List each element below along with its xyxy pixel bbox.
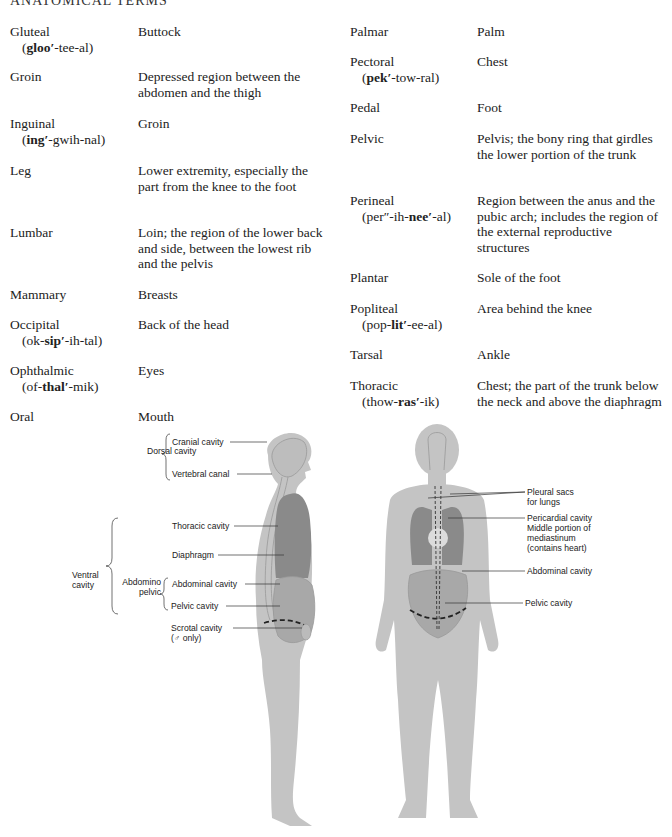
glossary-entry: Lumbar Loin; the region of the lower bac… <box>10 225 330 272</box>
label-diaphragm: Diaphragm <box>172 550 214 560</box>
pronunciation: (gloo′-tee-al) <box>10 40 138 56</box>
term: Popliteal <box>350 301 398 316</box>
body-cavities-figure: Dorsal cavity Cranial cavity Vertebral c… <box>0 420 672 837</box>
glossary-entry: Inguinal(ing′-gwih-nal) Groin <box>10 116 170 147</box>
glossary-entry: Palmar Palm <box>350 24 505 40</box>
definition: Lower extremity, especially the part fro… <box>138 163 330 194</box>
definition: Depressed region between the abdomen and… <box>138 69 330 100</box>
label-pleural-sacs: Pleural sacs <box>527 487 574 497</box>
term: Pedal <box>350 100 380 115</box>
term: Gluteal <box>10 24 50 39</box>
pronunciation: (ok-sip′-ih-tal) <box>10 333 138 349</box>
pronunciation: (of-thal′-mik) <box>10 379 138 395</box>
definition: Palm <box>477 24 505 40</box>
definition: Ankle <box>477 347 510 363</box>
term: Thoracic <box>350 378 398 393</box>
pronunciation: (per″-ih-nee′-al) <box>350 209 477 225</box>
pronunciation: (thow-ras′-ik) <box>350 394 477 410</box>
label-pelvic-cavity-front: Pelvic cavity <box>525 598 572 608</box>
term: Tarsal <box>350 347 383 362</box>
side-view-body <box>255 433 314 826</box>
definition: Area behind the knee <box>477 301 592 332</box>
glossary-entry: Pectoral(pek′-tow-ral) Chest <box>350 54 508 85</box>
glossary-entry: Ophthalmic(of-thal′-mik) Eyes <box>10 363 164 394</box>
definition: Back of the head <box>138 317 229 348</box>
definition: Chest <box>477 54 508 85</box>
term: Lumbar <box>10 225 53 240</box>
glossary-entry: Tarsal Ankle <box>350 347 510 363</box>
definition: Pelvis; the bony ring that girdles the l… <box>477 131 665 162</box>
definition: Eyes <box>138 363 164 394</box>
pronunciation: (pop-lit′-ee-al) <box>350 317 477 333</box>
label-pericardial-2: Middle portion of <box>527 523 591 533</box>
term: Mammary <box>10 287 66 302</box>
glossary-entry: Gluteal(gloo′-tee-al) Buttock <box>10 24 181 55</box>
glossary-entry: Popliteal(pop-lit′-ee-al) Area behind th… <box>350 301 592 332</box>
definition: Chest; the part of the trunk below the n… <box>477 378 665 409</box>
label-abdomino-pelvic: Abdomino pelvic <box>113 577 161 597</box>
label-cranial-cavity: Cranial cavity <box>172 437 224 447</box>
definition: Sole of the foot <box>477 270 561 286</box>
label-ventral-cavity: Ventral cavity <box>72 570 108 590</box>
glossary-entry: Pelvic Pelvis; the bony ring that girdle… <box>350 131 665 162</box>
glossary-entry: Thoracic(thow-ras′-ik) Chest; the part o… <box>350 378 665 409</box>
body-illustration <box>0 420 672 837</box>
glossary-entry: Perineal(per″-ih-nee′-al) Region between… <box>350 193 665 255</box>
term: Occipital <box>10 317 59 332</box>
term: Perineal <box>350 193 394 208</box>
term: Leg <box>10 163 31 178</box>
label-pericardial-3: mediastinum <box>527 533 576 543</box>
definition: Breasts <box>138 287 178 303</box>
page-header: ANATOMICAL TERMS <box>10 0 168 9</box>
term: Ophthalmic <box>10 363 74 378</box>
term: Palmar <box>350 24 388 39</box>
label-abdominal-cavity-front: Abdominal cavity <box>527 566 592 576</box>
label-abdominal-cavity: Abdominal cavity <box>172 579 237 589</box>
glossary-entry: Groin Depressed region between the abdom… <box>10 69 330 100</box>
label-pericardial-4: (contains heart) <box>527 543 587 553</box>
term: Inguinal <box>10 116 55 131</box>
glossary-entry: Leg Lower extremity, especially the part… <box>10 163 330 194</box>
label-scrotal-note: (♂ only) <box>171 633 201 643</box>
glossary-entry: Pedal Foot <box>350 100 502 116</box>
pronunciation: (pek′-tow-ral) <box>350 70 477 86</box>
definition: Foot <box>477 100 502 116</box>
label-pericardial-cavity: Pericardial cavity <box>527 513 592 523</box>
glossary-entry: Plantar Sole of the foot <box>350 270 561 286</box>
label-dorsal-cavity: Dorsal cavity <box>147 446 196 456</box>
label-pleural-sacs-2: for lungs <box>527 497 560 507</box>
definition: Buttock <box>138 24 181 55</box>
term: Pectoral <box>350 54 394 69</box>
definition: Groin <box>138 116 170 147</box>
definition: Region between the anus and the pubic ar… <box>477 193 665 255</box>
definition: Loin; the region of the lower back and s… <box>138 225 330 272</box>
label-pelvic-cavity: Pelvic cavity <box>171 601 218 611</box>
label-thoracic-cavity: Thoracic cavity <box>172 521 229 531</box>
term: Pelvic <box>350 131 384 146</box>
front-view-body <box>376 424 499 818</box>
term: Plantar <box>350 270 388 285</box>
label-vertebral-canal: Vertebral canal <box>172 469 229 479</box>
term: Groin <box>10 69 42 84</box>
pronunciation: (ing′-gwih-nal) <box>10 132 138 148</box>
glossary-entry: Occipital(ok-sip′-ih-tal) Back of the he… <box>10 317 229 348</box>
label-scrotal-cavity: Scrotal cavity <box>171 623 222 633</box>
glossary-entry: Mammary Breasts <box>10 287 178 303</box>
